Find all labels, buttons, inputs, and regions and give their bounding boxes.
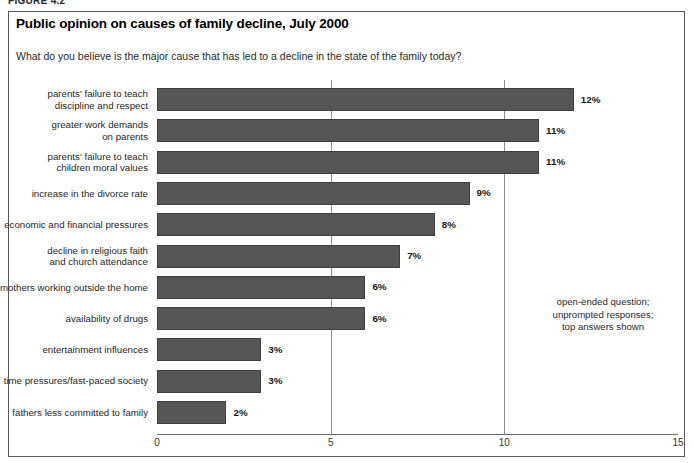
chart-question: What do you believe is the major cause t…	[16, 50, 461, 62]
chart-note: open-ended question; unprompted response…	[528, 296, 678, 334]
figure-frame	[8, 11, 685, 457]
chart-title: Public opinion on causes of family decli…	[16, 16, 349, 31]
figure-caption: FIGURE 4.2	[8, 0, 65, 5]
